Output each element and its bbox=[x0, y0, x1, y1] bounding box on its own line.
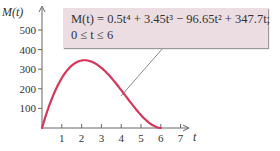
y-tick-label: 300 bbox=[20, 63, 37, 75]
x-tick-label: 4 bbox=[118, 132, 124, 144]
x-tick-label: 6 bbox=[158, 132, 164, 144]
x-tick-label: 7 bbox=[178, 132, 184, 144]
y-tick-label: 100 bbox=[20, 102, 37, 114]
x-tick-label: 1 bbox=[59, 132, 65, 144]
x-tick-label: 2 bbox=[79, 132, 85, 144]
x-axis-title: t bbox=[193, 130, 197, 144]
equation-domain-line: 0 ≤ t ≤ 6 bbox=[71, 27, 268, 43]
equation-line-1: M(t) = 0.5t⁴ + 3.45t³ − 96.65t² + 347.7t… bbox=[71, 11, 268, 27]
y-tick-label: 200 bbox=[20, 83, 37, 95]
x-tick-label: 5 bbox=[138, 132, 144, 144]
x-tick-label: 3 bbox=[99, 132, 105, 144]
x-ticks: 1234567 bbox=[59, 124, 184, 144]
y-tick-label: 500 bbox=[20, 24, 37, 36]
callout-leader-line bbox=[121, 48, 163, 96]
equation-callout: M(t) = 0.5t⁴ + 3.45t³ − 96.65t² + 347.7t… bbox=[63, 8, 268, 48]
y-axis-title: M(t) bbox=[1, 5, 23, 19]
y-tick-label: 400 bbox=[20, 44, 37, 56]
y-ticks: 100200300400500 bbox=[20, 24, 43, 114]
